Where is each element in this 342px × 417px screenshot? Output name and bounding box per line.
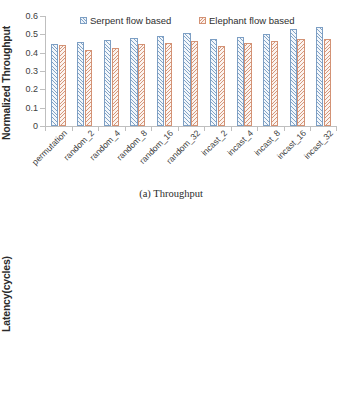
y-tick-throughput (40, 108, 45, 109)
y-tick-label-throughput: 0.6 (8, 11, 38, 21)
y-tick-throughput (40, 16, 45, 17)
bar-elephant (218, 46, 225, 126)
y-tick-label-throughput: 0 (8, 121, 38, 131)
legend-label-serpent: Serpent flow based (90, 15, 171, 26)
y-tick-label-throughput: 0.1 (8, 103, 38, 113)
bar-group (72, 16, 99, 126)
legend-label-elephant: Elephant flow based (209, 15, 295, 26)
bar-elephant (244, 43, 251, 126)
bar-elephant (297, 39, 304, 126)
chart-panel-latency: Latency(cycles) 01020304050607080 Serpen… (0, 207, 342, 417)
bar-serpent (104, 40, 111, 126)
bar-serpent (316, 27, 323, 126)
legend-swatch-serpent-icon (80, 17, 87, 24)
bar-elephant (112, 48, 119, 126)
chart-panel-throughput: Normalized Throughput 00.10.20.30.40.50.… (0, 0, 342, 207)
bar-elephant (191, 41, 198, 126)
y-axis-title-latency: Latency(cycles) (0, 219, 14, 369)
bar-group (284, 16, 311, 126)
bar-serpent (210, 39, 217, 126)
y-tick-label-throughput: 0.5 (8, 29, 38, 39)
bar-serpent (51, 44, 58, 127)
bar-elephant (85, 50, 92, 126)
legend-swatch-elephant-icon (199, 17, 206, 24)
bar-group (125, 16, 152, 126)
bar-serpent (157, 36, 164, 126)
bar-group (178, 16, 205, 126)
bar-group (231, 16, 258, 126)
bar-group (310, 16, 337, 126)
bar-group (98, 16, 125, 126)
plot-area-throughput: 00.10.20.30.40.50.6 (45, 16, 337, 127)
bar-serpent (183, 33, 190, 126)
bar-serpent (290, 29, 297, 126)
legend-item-serpent-throughput: Serpent flow based (80, 15, 171, 26)
bar-elephant (165, 43, 172, 126)
bar-elephant (59, 45, 66, 126)
y-tick-label-throughput: 0.3 (8, 66, 38, 76)
y-tick-label-throughput: 0.4 (8, 48, 38, 58)
bar-series-container-throughput (45, 16, 337, 126)
y-tick-throughput (40, 89, 45, 90)
legend-item-elephant-throughput: Elephant flow based (199, 15, 295, 26)
y-tick-throughput (40, 53, 45, 54)
x-axis-labels-throughput: permutationrandom_2random_4random_8rando… (45, 128, 337, 186)
bar-elephant (324, 39, 331, 126)
bar-group (204, 16, 231, 126)
bar-elephant (271, 41, 278, 126)
bar-serpent (130, 38, 137, 126)
bar-serpent (77, 42, 84, 126)
bar-elephant (138, 44, 145, 126)
y-tick-label-throughput: 0.2 (8, 84, 38, 94)
bar-group (45, 16, 72, 126)
y-tick-throughput (40, 34, 45, 35)
bar-group (257, 16, 284, 126)
y-tick-throughput (40, 71, 45, 72)
bar-serpent (263, 34, 270, 126)
bar-group (151, 16, 178, 126)
panel-caption-throughput: (a) Throughput (0, 188, 342, 199)
bar-serpent (237, 37, 244, 126)
figure-throughput-latency: Normalized Throughput 00.10.20.30.40.50.… (0, 0, 342, 417)
